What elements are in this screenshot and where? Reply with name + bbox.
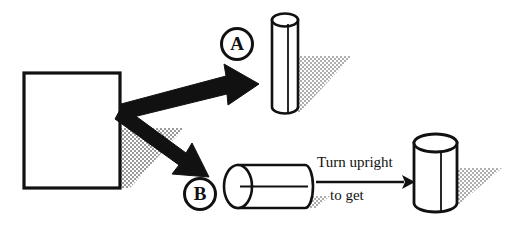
cylinder-b-shape <box>224 165 313 208</box>
final-cylinder-shadow <box>456 168 502 205</box>
branch-label-b: B <box>183 177 217 211</box>
cylinder-a-shape <box>272 14 298 114</box>
arrow-up-right-icon <box>121 64 259 119</box>
source-rectangle <box>24 73 120 188</box>
caption-turn-upright: Turn upright <box>317 154 393 171</box>
final-cylinder-shape <box>414 134 457 212</box>
diagram-canvas: A B Turn upright to get <box>0 0 507 228</box>
caption-to-get: to get <box>330 187 364 204</box>
diagram-graphics <box>0 0 507 228</box>
branch-label-a: A <box>220 27 254 61</box>
cylinder-a-shadow <box>297 56 352 112</box>
